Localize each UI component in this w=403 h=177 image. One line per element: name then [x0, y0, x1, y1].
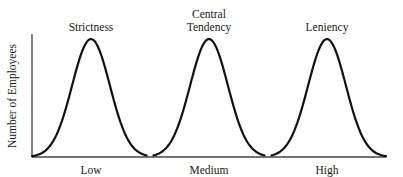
y-axis-label: Number of Employees	[6, 43, 19, 148]
distribution-curves	[32, 39, 386, 156]
rating-error-chart: Number of Employees Low Medium High Stri…	[0, 0, 403, 177]
x-tick-label-high: High	[316, 164, 339, 177]
series-labels: Strictness Central Tendency Leniency	[69, 8, 349, 34]
curve-strictness	[32, 39, 146, 156]
x-tick-label-low: Low	[80, 164, 102, 176]
series-label-central: Central	[192, 8, 226, 20]
y-axis-group: Number of Employees	[6, 34, 32, 157]
series-label-tendency: Tendency	[187, 21, 232, 34]
x-axis-group: Low Medium High	[32, 157, 386, 177]
series-label-strictness: Strictness	[69, 21, 114, 33]
curve-central-tendency	[154, 39, 265, 155]
x-tick-label-medium: Medium	[190, 164, 229, 176]
series-label-leniency: Leniency	[306, 21, 349, 34]
curve-leniency	[272, 39, 386, 156]
